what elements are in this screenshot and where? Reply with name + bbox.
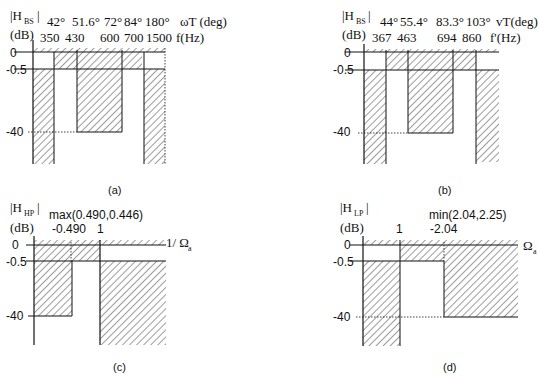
panel-d-caption: (d) bbox=[443, 361, 456, 373]
panel-c-caption: (c) bbox=[113, 361, 126, 373]
panel-a-ytick-2: -40 bbox=[6, 125, 24, 139]
panel-a-top-label-1: 51.6° bbox=[72, 14, 100, 29]
panel-c-ytick-0: 0 bbox=[12, 238, 19, 252]
panel-d-annotation: min(2.04,2.25) bbox=[429, 208, 506, 222]
panel-c-x-axis-sub: a bbox=[188, 244, 192, 253]
panel-c-x-axis-title: 1/ Ω bbox=[166, 235, 189, 250]
panel-d-yunit: (dB) bbox=[340, 220, 364, 235]
panel-c-ylabel-close: | bbox=[37, 200, 40, 215]
panel-a-ylabel-sub: BS bbox=[24, 17, 34, 26]
panel-b-bottom-label-2: 694 bbox=[437, 30, 457, 45]
panel-a-bottom-label-1: 430 bbox=[65, 30, 85, 45]
panel-b-bottom-label-0: 367 bbox=[372, 30, 392, 45]
panel-c-ylabel-sub: HP bbox=[24, 209, 35, 218]
panel-b-top-label-3: 103° bbox=[466, 14, 491, 29]
panel-a-bottom-label-4: 1500 bbox=[146, 30, 172, 45]
panel-a-bottom-label-3: 700 bbox=[124, 30, 144, 45]
panel-a-ylabel-close: | bbox=[37, 8, 40, 23]
filter-specification-figure: |H BS | (dB) 42° 51.6° 72° 84° 180° ωT (… bbox=[0, 0, 539, 378]
panel-b: |H BS | (dB) 44° 55.4° 83.3° 103° vT(deg… bbox=[333, 8, 538, 196]
panel-a-top-label-4: 180° bbox=[145, 14, 170, 29]
panel-b-caption: (b) bbox=[438, 184, 451, 196]
panel-b-ylabel-close: | bbox=[368, 8, 371, 23]
panel-a-ytick-1: -0.5 bbox=[6, 63, 27, 77]
panel-a-top-label-3: 84° bbox=[124, 14, 142, 29]
panel-b-top-label-1: 55.4° bbox=[400, 14, 428, 29]
panel-d: |H LP | (dB) min(2.04,2.25) 1 -2.04 Ω a … bbox=[333, 200, 537, 373]
panel-b-top-label-2: 83.3° bbox=[436, 14, 464, 29]
panel-b-top-label-0: 44° bbox=[380, 14, 398, 29]
panel-c-annotation: max(0.490,0.446) bbox=[49, 208, 143, 222]
panel-d-x-axis-title: Ω bbox=[523, 238, 533, 253]
panel-a-bottom-label-0: 350 bbox=[40, 30, 60, 45]
panel-d-ytick-1: -0.5 bbox=[333, 255, 354, 269]
panel-c-tick-label-1: 1 bbox=[97, 222, 104, 236]
panel-a-bottom-label-2: 600 bbox=[100, 30, 120, 45]
panel-d-ylabel: |H bbox=[340, 200, 352, 215]
panel-c-ytick-2: -40 bbox=[6, 309, 24, 323]
panel-b-ylabel-sub: BS bbox=[356, 17, 366, 26]
panel-d-ylabel-close: | bbox=[366, 200, 369, 215]
panel-c-ylabel: |H bbox=[10, 200, 22, 215]
panel-d-tick-label-0: 1 bbox=[396, 222, 403, 236]
panel-b-top-axis-title: vT(deg) bbox=[496, 14, 538, 29]
panel-a-top-axis-title: ωT (deg) bbox=[180, 14, 227, 29]
panel-b-ytick-2: -40 bbox=[333, 125, 351, 139]
panel-a: |H BS | (dB) 42° 51.6° 72° 84° 180° ωT (… bbox=[6, 8, 227, 196]
panel-c-tick-label-0: -0.490 bbox=[52, 222, 86, 236]
panel-c-yunit: (dB) bbox=[10, 220, 34, 235]
panel-b-bottom-label-1: 463 bbox=[397, 30, 417, 45]
panel-d-ylabel-sub: LP bbox=[354, 209, 364, 218]
panel-d-ytick-2: -40 bbox=[333, 310, 351, 324]
panel-b-ylabel: |H bbox=[342, 8, 354, 23]
panel-b-bottom-axis-title: f'(Hz) bbox=[490, 30, 521, 45]
panel-d-ytick-0: 0 bbox=[344, 238, 351, 252]
panel-a-top-label-2: 72° bbox=[104, 14, 122, 29]
panel-c-ytick-1: -0.5 bbox=[6, 255, 27, 269]
panel-a-ytick-0: 0 bbox=[10, 46, 17, 60]
panel-b-ytick-0: 0 bbox=[344, 46, 351, 60]
panel-b-bottom-label-3: 860 bbox=[462, 30, 482, 45]
panel-a-top-label-0: 42° bbox=[47, 14, 65, 29]
panel-b-yunit: (dB) bbox=[342, 27, 366, 42]
panel-d-x-axis-sub: a bbox=[533, 247, 537, 256]
panel-d-tick-label-1: -2.04 bbox=[430, 222, 458, 236]
panel-c: |H HP | (dB) max(0.490,0.446) -0.490 1 1… bbox=[6, 200, 192, 373]
panel-a-ylabel: |H bbox=[10, 8, 22, 23]
panel-a-yunit: (dB) bbox=[10, 27, 34, 42]
panel-a-caption: (a) bbox=[108, 184, 121, 196]
panel-a-bottom-axis-title: f(Hz) bbox=[176, 30, 204, 45]
